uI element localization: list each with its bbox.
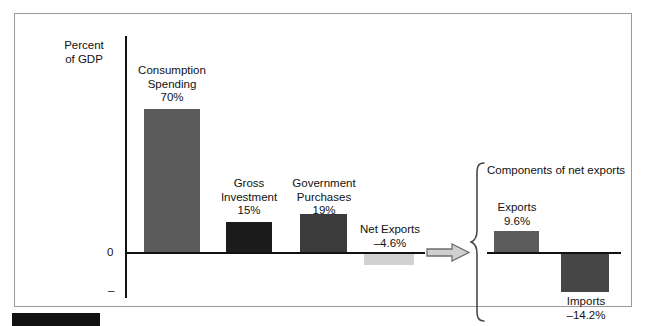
bar-label-government-line1: Government — [273, 177, 375, 191]
y-axis-title-line2: of GDP — [49, 52, 119, 66]
bar-consumption-spending — [144, 109, 200, 252]
y-axis-tick-zero: 0 — [107, 245, 113, 259]
bar-label-consumption-spending: Consumption Spending 70% — [122, 64, 222, 105]
figure-frame: Percent of GDP 0 – Consumption Spending … — [14, 13, 632, 307]
bar-label-exports-name: Exports — [483, 201, 551, 215]
bar-label-imports-name: Imports — [547, 295, 625, 309]
bar-government-purchases — [300, 214, 347, 252]
bar-net-exports — [364, 254, 414, 265]
bar-label-net-exports: Net Exports –4.6% — [352, 223, 428, 250]
bar-gross-investment — [226, 222, 272, 252]
bar-label-consumption-line2: Spending — [122, 78, 222, 92]
bar-label-imports: Imports –14.2% — [547, 295, 625, 322]
bar-value-imports: –14.2% — [547, 309, 625, 323]
inset-title-components-of-net-exports: Components of net exports — [487, 164, 625, 176]
arrow-right-icon — [426, 243, 470, 262]
curly-brace-icon — [470, 162, 486, 322]
bar-label-exports: Exports 9.6% — [483, 201, 551, 228]
bar-label-government-purchases: Government Purchases 19% — [273, 177, 375, 218]
figure-page: Percent of GDP 0 – Consumption Spending … — [0, 0, 656, 326]
bar-exports — [494, 231, 539, 252]
y-axis-title-line1: Percent — [49, 38, 119, 52]
bottom-marker-bar — [12, 313, 100, 326]
y-axis-title: Percent of GDP — [49, 38, 119, 66]
bar-value-consumption: 70% — [122, 91, 222, 105]
bar-label-consumption-line1: Consumption — [122, 64, 222, 78]
bar-value-netexports: –4.6% — [352, 237, 428, 251]
bar-label-government-line2: Purchases — [273, 191, 375, 205]
bar-label-netexports-line1: Net Exports — [352, 223, 428, 237]
y-axis-tick-negative: – — [108, 283, 114, 297]
bar-imports — [561, 254, 609, 292]
bar-value-exports: 9.6% — [483, 215, 551, 229]
